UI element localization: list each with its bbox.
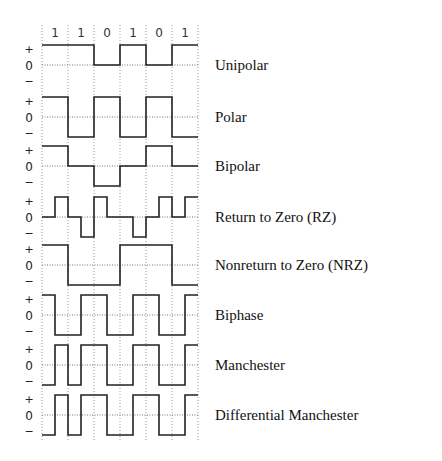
axis-minus-label: − — [24, 425, 33, 438]
bit-label: 0 — [103, 26, 111, 40]
axis-plus-label: + — [24, 243, 33, 256]
encoding-row: +0−Nonreturn to Zero (NRZ) — [24, 243, 367, 288]
waveform-0 — [42, 45, 198, 65]
axis-minus-label: − — [24, 75, 33, 88]
encoding-rows: +0−Unipolar+0−Polar+0−Bipolar+0−Return t… — [24, 43, 367, 438]
axis-plus-label: + — [24, 195, 33, 208]
line-coding-diagram: 110101 +0−Unipolar+0−Polar+0−Bipolar+0−R… — [0, 0, 442, 461]
encoding-name: Unipolar — [215, 57, 268, 73]
encoding-name: Manchester — [215, 357, 285, 373]
encoding-row: +0−Manchester — [24, 343, 285, 388]
bit-label: 1 — [51, 26, 59, 40]
axis-minus-label: − — [24, 375, 33, 388]
axis-minus-label: − — [24, 325, 33, 338]
encoding-row: +0−Unipolar — [24, 43, 268, 88]
axis-zero-label: 0 — [25, 259, 33, 273]
bit-label: 0 — [155, 26, 163, 40]
encoding-name: Polar — [215, 109, 247, 125]
bit-label: 1 — [77, 26, 85, 40]
bit-label: 1 — [181, 26, 189, 40]
axis-plus-label: + — [24, 393, 33, 406]
axis-plus-label: + — [24, 144, 33, 157]
encoding-name: Return to Zero (RZ) — [215, 209, 336, 226]
axis-zero-label: 0 — [25, 111, 33, 125]
axis-plus-label: + — [24, 343, 33, 356]
axis-plus-label: + — [24, 95, 33, 108]
axis-plus-label: + — [24, 43, 33, 56]
encoding-row: +0−Return to Zero (RZ) — [24, 195, 336, 240]
axis-zero-label: 0 — [25, 160, 33, 174]
axis-zero-label: 0 — [25, 211, 33, 225]
axis-minus-label: − — [24, 127, 33, 140]
axis-zero-label: 0 — [25, 409, 33, 423]
encoding-row: +0−Polar — [24, 95, 246, 140]
encoding-name: Biphase — [215, 307, 264, 323]
axis-minus-label: − — [24, 227, 33, 240]
bit-grid — [42, 25, 198, 442]
encoding-row: +0−Biphase — [24, 293, 263, 338]
encoding-name: Bipolar — [215, 158, 260, 174]
encoding-row: +0−Bipolar — [24, 144, 260, 189]
axis-zero-label: 0 — [25, 59, 33, 73]
axis-zero-label: 0 — [25, 309, 33, 323]
encoding-name: Differential Manchester — [215, 407, 358, 423]
axis-minus-label: − — [24, 176, 33, 189]
encoding-row: +0−Differential Manchester — [24, 393, 358, 438]
axis-minus-label: − — [24, 275, 33, 288]
axis-plus-label: + — [24, 293, 33, 306]
encoding-name: Nonreturn to Zero (NRZ) — [215, 257, 368, 274]
bit-label: 1 — [129, 26, 137, 40]
axis-zero-label: 0 — [25, 359, 33, 373]
